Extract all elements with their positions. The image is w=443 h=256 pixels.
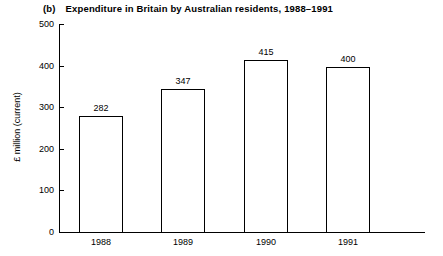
y-axis-line	[59, 24, 60, 233]
bar-1988[interactable]	[79, 116, 123, 233]
bar-1989[interactable]	[161, 89, 205, 233]
bar-1991[interactable]	[326, 67, 370, 234]
y-tick-mark	[59, 107, 64, 108]
x-tick-label-1990: 1990	[244, 238, 288, 247]
y-tick-mark	[59, 149, 64, 150]
y-tick-mark	[59, 24, 64, 25]
x-tick-label-1988: 1988	[79, 238, 123, 247]
plot-area: £ million (current) 0 100 200 300 400 50…	[0, 0, 443, 256]
y-tick-label: 400	[8, 62, 54, 71]
y-tick-label: 100	[8, 186, 54, 195]
y-tick-label: 0	[8, 228, 54, 237]
y-tick-label: 500	[8, 20, 54, 29]
chart-page: (b)Expenditure in Britain by Australian …	[0, 0, 443, 256]
y-axis-title: £ million (current)	[12, 72, 22, 182]
bar-value-1988: 282	[79, 104, 123, 113]
y-tick-mark	[59, 190, 64, 191]
y-tick-mark	[59, 232, 64, 233]
bar-value-1989: 347	[161, 77, 205, 86]
x-tick-label-1989: 1989	[161, 238, 205, 247]
y-tick-mark	[59, 66, 64, 67]
y-tick-label: 200	[8, 145, 54, 154]
y-tick-label: 300	[8, 103, 54, 112]
bar-value-1990: 415	[244, 48, 288, 57]
bar-1990[interactable]	[244, 60, 288, 233]
x-tick-label-1991: 1991	[326, 238, 370, 247]
bar-value-1991: 400	[326, 55, 370, 64]
